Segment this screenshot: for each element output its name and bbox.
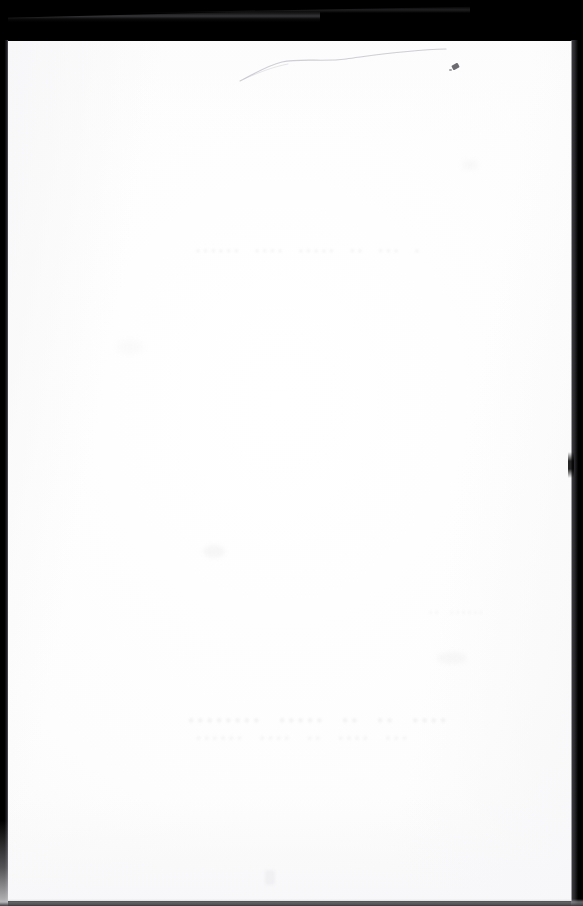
showthrough-text-lower-second: ••• •••• •• •••• •••••• — [193, 730, 407, 748]
showthrough-text-middle: •••••• •• — [427, 606, 483, 621]
page-edge-taper-left — [0, 820, 8, 906]
paper-smudge — [462, 160, 478, 170]
showthrough-text-upper: • ••• •• ••••• •••• •••••• — [193, 243, 419, 260]
scanner-background-top — [0, 0, 583, 41]
paper-smudge — [265, 870, 275, 885]
scanner-background-left — [0, 40, 8, 906]
paper-smudge — [437, 652, 467, 664]
showthrough-text-lower: •••• •• •• ••••• •••••••• — [185, 711, 446, 732]
paper-smudge — [203, 545, 225, 558]
paper-tone-layer — [7, 40, 572, 901]
paper-smudge — [117, 340, 143, 354]
lifted-page-edge — [140, 6, 470, 13]
scanner-background-bottom — [0, 899, 583, 906]
paper-shading-layer — [7, 40, 572, 901]
scanned-page-canvas: • ••• •• ••••• •••• •••••• •••••• •• •••… — [0, 0, 583, 906]
blank-page: • ••• •• ••••• •••• •••••• •••••• •• •••… — [7, 40, 572, 901]
page-edge-notch — [568, 452, 574, 478]
ink-speck-secondary — [449, 69, 452, 71]
